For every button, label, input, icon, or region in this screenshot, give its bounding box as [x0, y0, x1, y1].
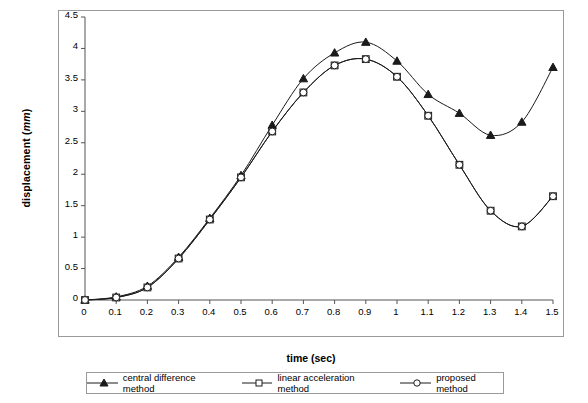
- y-axis-tick-label: 2: [28, 166, 78, 177]
- legend-item-linear-acceleration-method: linear acceleration method: [242, 372, 379, 394]
- series-1: [82, 56, 557, 304]
- y-axis-tick-label: 4.5: [28, 9, 78, 20]
- y-axis-tick-label: 2.5: [28, 135, 78, 146]
- legend: central difference method linear acceler…: [86, 372, 504, 394]
- y-axis-tick-label: 0.5: [28, 261, 78, 272]
- legend-item-central-difference-method: central difference method: [87, 372, 220, 394]
- legend-marker-square-icon: [242, 378, 273, 388]
- x-axis-label: time (sec): [58, 352, 564, 364]
- chart-container: displacement (mm) time (sec) central dif…: [0, 0, 588, 403]
- series-2: [82, 56, 557, 304]
- y-axis-tick-label: 0: [28, 292, 78, 303]
- y-axis-label: displacement (mm): [20, 28, 32, 288]
- legend-marker-triangle-icon: [87, 378, 118, 388]
- y-axis-tick-label: 1.5: [28, 198, 78, 209]
- y-axis-tick-label: 3.5: [28, 72, 78, 83]
- legend-label: linear acceleration method: [277, 372, 378, 394]
- legend-label: central difference method: [123, 372, 220, 394]
- y-axis-tick-label: 4: [28, 40, 78, 51]
- y-axis-tick-label: 1: [28, 229, 78, 240]
- plot-svg: [59, 11, 563, 336]
- plot-area: [58, 10, 564, 337]
- x-axis-tick-label: 1.5: [532, 306, 572, 317]
- legend-marker-circle-icon: [400, 378, 431, 388]
- y-axis-label-unit: mm: [20, 112, 32, 131]
- legend-label: proposed method: [436, 372, 503, 394]
- y-axis-tick-label: 3: [28, 103, 78, 114]
- legend-item-proposed-method: proposed method: [400, 372, 503, 394]
